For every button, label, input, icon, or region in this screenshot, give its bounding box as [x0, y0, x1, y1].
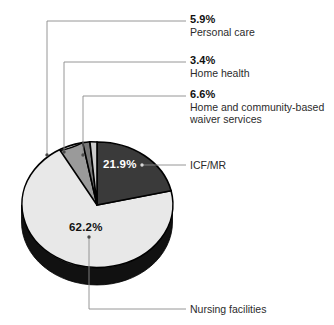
callout-pct-personal-care: 5.9%	[190, 13, 255, 26]
callout-label-waiver-services-line2: waiver services	[190, 113, 324, 125]
callout-label-nursing-facilities: Nursing facilities	[190, 303, 266, 315]
leader-line-personal-care	[47, 21, 186, 155]
slice-value-icf-mr: 21.9%	[103, 158, 137, 170]
slice-value-nursing-facilities: 62.2%	[69, 221, 103, 233]
callout-pct-waiver-services: 6.6%	[190, 88, 324, 101]
callout-personal-care: 5.9% Personal care	[190, 13, 255, 38]
leader-dot-waiver-services	[81, 153, 84, 156]
leader-dot-personal-care	[45, 153, 48, 156]
leader-dot-home-health	[62, 150, 65, 153]
callout-label-icf-mr: ICF/MR	[190, 159, 226, 171]
callout-label-personal-care: Personal care	[190, 26, 255, 38]
leader-dot-icf-mr	[140, 163, 143, 166]
leader-dot-nursing-facilities	[87, 235, 90, 238]
callout-home-health: 3.4% Home health	[190, 54, 250, 79]
leader-line-home-health	[64, 62, 186, 152]
pie-slices	[22, 142, 173, 268]
pie-chart-graphic	[0, 0, 334, 325]
callout-label-home-health: Home health	[190, 67, 250, 79]
callout-waiver-services: 6.6% Home and community-based waiver ser…	[190, 88, 324, 126]
callout-pct-home-health: 3.4%	[190, 54, 250, 67]
pie-chart-figure: 21.9% 62.2% 5.9% Personal care 3.4% Home…	[0, 0, 334, 325]
callout-label-waiver-services-line1: Home and community-based	[190, 101, 324, 113]
